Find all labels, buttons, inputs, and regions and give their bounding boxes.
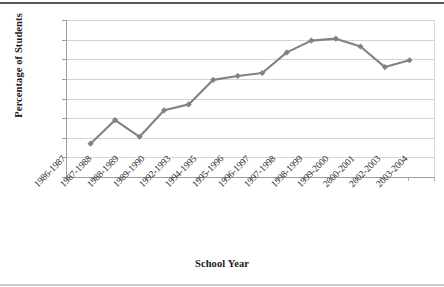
y-tick-mark bbox=[62, 99, 67, 100]
y-tick-mark bbox=[62, 20, 67, 21]
gridline bbox=[66, 118, 434, 119]
plot-right-edge bbox=[434, 20, 435, 178]
y-axis-title: Percentage of Students bbox=[13, 0, 24, 146]
x-tick-mark bbox=[434, 177, 435, 181]
gridline bbox=[66, 40, 434, 41]
chart-figure: Percentage of Students School Year 16 14… bbox=[0, 0, 444, 287]
gridline bbox=[66, 79, 434, 80]
x-axis-title: School Year bbox=[0, 258, 444, 269]
gridline bbox=[66, 59, 434, 60]
y-tick-mark bbox=[62, 40, 67, 41]
bottom-border-rule bbox=[0, 284, 444, 286]
plot-area bbox=[66, 20, 434, 177]
gridline bbox=[66, 20, 434, 21]
y-tick-mark bbox=[62, 59, 67, 60]
gridline bbox=[66, 99, 434, 100]
gridline bbox=[66, 138, 434, 139]
y-tick-mark bbox=[62, 138, 67, 139]
y-tick-mark bbox=[62, 79, 67, 80]
x-tick-mark bbox=[408, 177, 409, 181]
top-border-rule bbox=[0, 2, 444, 4]
y-tick-mark bbox=[62, 118, 67, 119]
